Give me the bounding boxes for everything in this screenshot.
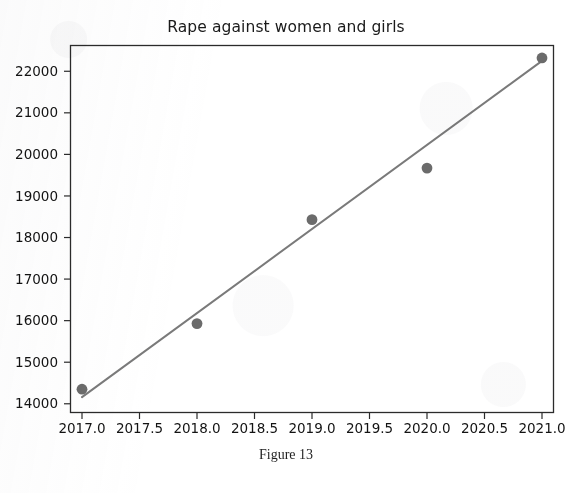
trend-line	[82, 61, 542, 397]
data-point	[422, 163, 433, 174]
x-tick-label: 2020.0	[403, 420, 450, 436]
x-axis-ticks	[82, 413, 542, 420]
data-point	[192, 318, 203, 329]
x-tick-label: 2018.0	[173, 420, 220, 436]
x-axis-tick-labels: 2017.0 2017.5 2018.0 2018.5 2019.0 2019.…	[58, 420, 565, 436]
x-tick-label: 2019.0	[288, 420, 335, 436]
scatter-plot: 14000 15000 16000 17000 18000 19000 2000…	[0, 0, 572, 440]
data-point	[307, 214, 318, 225]
y-tick-label: 21000	[15, 104, 58, 120]
data-point-markers	[77, 53, 548, 395]
y-axis-tick-labels: 14000 15000 16000 17000 18000 19000 2000…	[15, 63, 58, 412]
figure-caption: Figure 13	[0, 447, 572, 463]
y-tick-label: 19000	[15, 188, 58, 204]
data-point	[77, 384, 88, 395]
x-tick-label: 2018.5	[231, 420, 278, 436]
y-tick-label: 17000	[15, 271, 58, 287]
x-tick-label: 2021.0	[518, 420, 565, 436]
y-tick-label: 20000	[15, 146, 58, 162]
y-tick-label: 15000	[15, 354, 58, 370]
y-axis-ticks	[64, 71, 71, 404]
y-tick-label: 14000	[15, 395, 58, 411]
y-tick-label: 16000	[15, 312, 58, 328]
x-tick-label: 2017.5	[116, 420, 163, 436]
y-tick-label: 22000	[15, 63, 58, 79]
x-tick-label: 2020.5	[461, 420, 508, 436]
data-point	[537, 53, 548, 64]
x-tick-label: 2019.5	[346, 420, 393, 436]
x-tick-label: 2017.0	[58, 420, 105, 436]
figure-container: Rape against women and girls 14000 15000…	[0, 0, 572, 493]
y-tick-label: 18000	[15, 229, 58, 245]
